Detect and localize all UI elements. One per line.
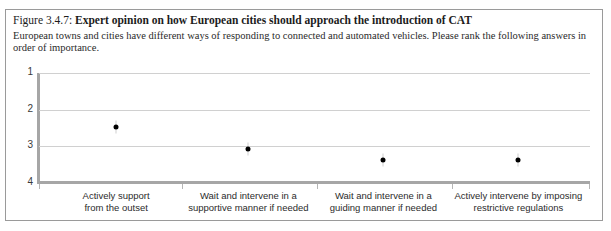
figure-container: Figure 3.4.7: Expert opinion on how Euro… — [5, 9, 603, 221]
x-tick-mark — [452, 184, 453, 189]
x-tick-mark — [317, 184, 318, 189]
x-tick-mark — [589, 184, 590, 189]
figure-title-text: Expert opinion on how European cities sh… — [75, 14, 472, 26]
data-point — [381, 158, 386, 163]
x-category-line: restrictive regulations — [433, 202, 603, 214]
y-tick-label: 4 — [11, 176, 33, 187]
y-tick-label: 2 — [11, 103, 33, 114]
gridline — [39, 146, 590, 147]
data-point — [246, 146, 251, 151]
x-tick-mark — [39, 184, 40, 189]
x-tick-mark — [182, 184, 183, 189]
data-point — [114, 125, 119, 130]
chart: 1 2 3 4 — [6, 62, 602, 220]
x-category-label: Actively intervene by imposing restricti… — [433, 190, 603, 213]
plot-area — [39, 73, 590, 183]
y-tick-label: 3 — [11, 139, 33, 150]
figure-number: Figure 3.4.7: — [13, 14, 72, 26]
gridline — [39, 110, 590, 111]
y-axis-ticks: 1 2 3 4 — [6, 73, 33, 184]
figure-caption: Figure 3.4.7: Expert opinion on how Euro… — [13, 13, 597, 53]
data-point — [516, 158, 521, 163]
x-category-line: Actively intervene by imposing — [433, 190, 603, 202]
figure-subtitle: European towns and cities have different… — [13, 30, 593, 53]
figure-title: Figure 3.4.7: Expert opinion on how Euro… — [13, 13, 597, 27]
y-tick-label: 1 — [11, 66, 33, 77]
gridline — [39, 73, 590, 74]
x-axis-labels: Actively support from the outset Wait an… — [39, 190, 590, 220]
